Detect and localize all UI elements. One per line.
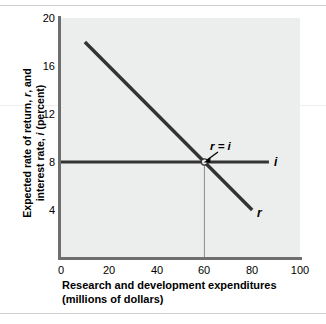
y-axis-label: Expected rate of return, r, and interest…	[21, 38, 47, 248]
series-label-i: i	[274, 156, 277, 168]
y-axis-label-i: i	[34, 132, 46, 135]
x-tick-0: 0	[46, 265, 76, 276]
series-label-r: r	[257, 207, 262, 219]
x-axis-label-line2: (millions of dollars)	[62, 293, 163, 305]
x-axis-label-line1: Research and development expenditures	[62, 279, 277, 291]
x-axis-label: Research and development expenditures (m…	[62, 279, 312, 306]
x-tick-100: 100	[285, 265, 315, 276]
x-tick-20: 20	[94, 265, 124, 276]
x-tick-40: 40	[142, 265, 172, 276]
annotation-leader-line	[207, 152, 218, 160]
y-axis-label-part1: Expected rate of return,	[21, 97, 33, 218]
x-tick-80: 80	[237, 265, 267, 276]
y-axis-label-r: r	[21, 93, 33, 97]
expected-return-line	[85, 42, 252, 210]
y-tick-20: 20	[33, 13, 55, 24]
equilibrium-annotation: r = i	[210, 140, 231, 152]
y-axis-label-part2: , and	[21, 68, 33, 93]
y-axis-label-part4: (percent)	[34, 85, 46, 133]
x-tick-60: 60	[189, 265, 219, 276]
y-axis-label-part3: interest rate,	[34, 135, 46, 201]
chart-figure: 20 16 12 8 4 0 20 40 60 80 100 Expected …	[0, 0, 326, 324]
